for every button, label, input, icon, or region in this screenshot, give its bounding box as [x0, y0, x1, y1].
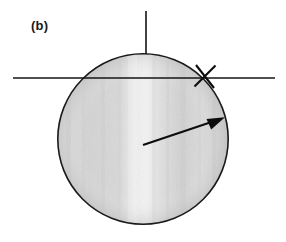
figure-panel-b: (b): [0, 0, 286, 242]
panel-label: (b): [31, 19, 48, 32]
figure-drawing-canvas: [0, 0, 286, 242]
